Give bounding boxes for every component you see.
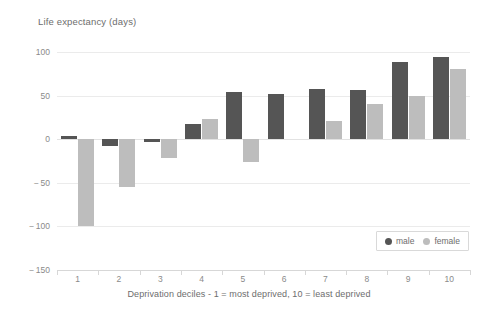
- bar-male-3: [144, 139, 160, 142]
- chart-container: Life expectancy (days) 100500− 50− 100− …: [0, 0, 498, 314]
- bar-male-5: [226, 92, 242, 139]
- x-tick-label-1: 1: [58, 274, 98, 284]
- bar-group-4: [185, 52, 218, 270]
- y-tick-label-50: 50: [6, 91, 50, 101]
- bar-group-6: [268, 52, 301, 270]
- bar-female-2: [119, 139, 135, 187]
- bar-female-9: [409, 96, 425, 139]
- x-tick-label-9: 9: [388, 274, 428, 284]
- x-tick-label-2: 2: [99, 274, 139, 284]
- bar-female-4: [202, 119, 218, 139]
- bar-male-4: [185, 124, 201, 139]
- bar-group-3: [144, 52, 177, 270]
- bar-male-1: [61, 136, 77, 139]
- x-tick-label-7: 7: [305, 274, 345, 284]
- bar-group-2: [102, 52, 135, 270]
- legend-label-female: female: [434, 236, 460, 246]
- y-tick-label--50: − 50: [6, 178, 50, 188]
- legend-label-male: male: [396, 236, 414, 246]
- x-tick-label-8: 8: [347, 274, 387, 284]
- x-tick-label-3: 3: [140, 274, 180, 284]
- bar-group-7: [309, 52, 342, 270]
- y-tick-label-100: 100: [6, 47, 50, 57]
- legend-swatch-female-icon: [423, 238, 430, 245]
- y-axis-tick-labels: 100500− 50− 100− 150: [0, 52, 50, 270]
- legend-item-male[interactable]: male: [385, 236, 414, 246]
- chart-title: Life expectancy (days): [38, 16, 136, 27]
- bar-group-1: [61, 52, 94, 270]
- bar-male-6: [268, 94, 284, 139]
- x-tick-label-4: 4: [182, 274, 222, 284]
- x-tick-label-5: 5: [223, 274, 263, 284]
- bar-female-7: [326, 121, 342, 139]
- legend-item-female[interactable]: female: [423, 236, 460, 246]
- x-axis-title: Deprivation deciles - 1 = most deprived,…: [0, 289, 498, 299]
- x-tick-mark-10: [470, 270, 471, 275]
- y-tick-label-0: 0: [6, 134, 50, 144]
- x-tick-label-6: 6: [264, 274, 304, 284]
- x-tick-label-10: 10: [429, 274, 469, 284]
- bar-male-8: [350, 90, 366, 139]
- chart-legend[interactable]: malefemale: [376, 231, 469, 251]
- y-tick-label--100: − 100: [6, 221, 50, 231]
- bar-female-1: [78, 139, 94, 225]
- bar-male-10: [433, 57, 449, 139]
- bar-female-3: [161, 139, 177, 158]
- legend-swatch-male-icon: [385, 238, 392, 245]
- bar-group-5: [226, 52, 259, 270]
- y-tick-label--150: − 150: [6, 265, 50, 275]
- bar-male-7: [309, 89, 325, 139]
- bar-male-2: [102, 139, 118, 146]
- bar-female-10: [450, 69, 466, 140]
- bar-female-5: [243, 139, 259, 162]
- bar-male-9: [392, 62, 408, 140]
- bar-female-8: [367, 104, 383, 139]
